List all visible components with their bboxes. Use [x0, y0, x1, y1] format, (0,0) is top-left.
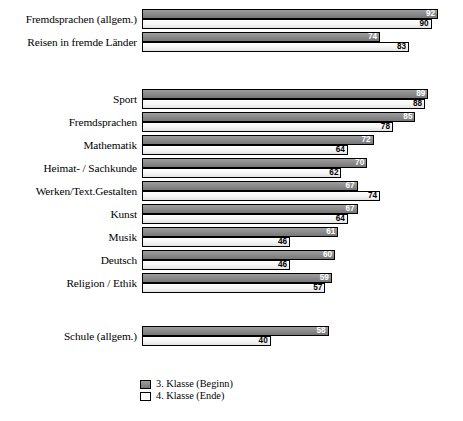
category-label-deutsch: Deutsch — [0, 254, 142, 266]
bar-end-reisen-in-fremde-laender: 83 — [142, 42, 409, 52]
bar-pair-fremdsprachen: 8578 — [142, 112, 463, 134]
category-label-schule-allgem: Schule (allgem.) — [0, 330, 142, 342]
bar-group-interests: Fremdsprachen (allgem.)9290Reisen in fre… — [0, 8, 463, 54]
bar-value-label: 78 — [381, 122, 390, 130]
bar-group-school: Schule (allgem.)5840 — [0, 325, 463, 348]
bar-value-label: 60 — [323, 250, 332, 258]
chart-row-reisen-in-fremde-laender: Reisen in fremde Länder7483 — [0, 31, 463, 54]
category-label-fremdsprachen-allgem: Fremdsprachen (allgem.) — [0, 13, 142, 25]
bar-pair-schule-allgem: 5840 — [142, 326, 463, 348]
bar-begin-sport: 89 — [142, 89, 428, 99]
bar-value-label: 85 — [403, 112, 412, 120]
legend-swatch-begin — [140, 380, 151, 389]
bar-value-label: 46 — [278, 260, 287, 268]
bar-value-label: 83 — [397, 42, 406, 50]
bar-value-label: 88 — [413, 99, 422, 107]
bar-end-heimat-sachkunde: 62 — [142, 168, 341, 178]
bar-begin-fremdsprachen-allgem: 92 — [142, 9, 438, 19]
bar-begin-deutsch: 60 — [142, 250, 335, 260]
legend-label-end: 4. Klasse (Ende) — [156, 390, 224, 402]
bar-pair-sport: 8988 — [142, 89, 463, 111]
bar-end-werken-text-gestalten: 74 — [142, 191, 380, 201]
category-label-fremdsprachen: Fremdsprachen — [0, 116, 142, 128]
chart-row-heimat-sachkunde: Heimat- / Sachkunde7062 — [0, 157, 463, 180]
chart-row-mathematik: Mathematik7264 — [0, 134, 463, 157]
bar-value-label: 58 — [316, 326, 325, 334]
bar-begin-heimat-sachkunde: 70 — [142, 158, 367, 168]
bar-pair-mathematik: 7264 — [142, 135, 463, 157]
bar-value-label: 74 — [368, 191, 377, 199]
bar-pair-heimat-sachkunde: 7062 — [142, 158, 463, 180]
bar-begin-religion-ethik: 59 — [142, 273, 332, 283]
chart-row-musik: Musik6146 — [0, 226, 463, 249]
bar-end-fremdsprachen-allgem: 90 — [142, 19, 432, 29]
bar-value-label: 67 — [345, 181, 354, 189]
bar-value-label: 90 — [419, 19, 428, 27]
bar-begin-reisen-in-fremde-laender: 74 — [142, 32, 380, 42]
category-label-reisen-in-fremde-laender: Reisen in fremde Länder — [0, 36, 142, 48]
bar-value-label: 74 — [368, 32, 377, 40]
chart-row-deutsch: Deutsch6046 — [0, 249, 463, 272]
bar-end-musik: 46 — [142, 237, 290, 247]
bar-value-label: 40 — [259, 336, 268, 344]
bar-value-label: 89 — [416, 89, 425, 97]
chart-row-werken-text-gestalten: Werken/Text.Gestalten6774 — [0, 180, 463, 203]
bar-end-schule-allgem: 40 — [142, 336, 271, 346]
bar-end-sport: 88 — [142, 99, 425, 109]
bar-value-label: 67 — [345, 204, 354, 212]
chart-row-fremdsprachen: Fremdsprachen8578 — [0, 111, 463, 134]
bar-end-fremdsprachen: 78 — [142, 122, 393, 132]
bar-value-label: 72 — [362, 135, 371, 143]
chart-row-schule-allgem: Schule (allgem.)5840 — [0, 325, 463, 348]
bar-pair-kunst: 6764 — [142, 204, 463, 226]
bar-begin-mathematik: 72 — [142, 135, 374, 145]
bar-begin-fremdsprachen: 85 — [142, 112, 415, 122]
bar-value-label: 46 — [278, 237, 287, 245]
bar-value-label: 59 — [320, 273, 329, 281]
bar-value-label: 70 — [355, 158, 364, 166]
legend-swatch-end — [140, 392, 151, 401]
category-label-kunst: Kunst — [0, 208, 142, 220]
bar-pair-religion-ethik: 5957 — [142, 273, 463, 295]
chart-row-kunst: Kunst6764 — [0, 203, 463, 226]
bar-end-mathematik: 64 — [142, 145, 348, 155]
bar-pair-reisen-in-fremde-laender: 7483 — [142, 32, 463, 54]
legend-item-end: 4. Klasse (Ende) — [140, 390, 233, 402]
bar-value-label: 64 — [336, 214, 345, 222]
bar-begin-kunst: 67 — [142, 204, 358, 214]
bar-group-subjects: Sport8988Fremdsprachen8578Mathematik7264… — [0, 88, 463, 295]
bar-end-kunst: 64 — [142, 214, 348, 224]
chart-row-fremdsprachen-allgem: Fremdsprachen (allgem.)9290 — [0, 8, 463, 31]
legend-item-begin: 3. Klasse (Beginn) — [140, 378, 233, 390]
bar-end-deutsch: 46 — [142, 260, 290, 270]
bar-pair-werken-text-gestalten: 6774 — [142, 181, 463, 203]
bar-pair-deutsch: 6046 — [142, 250, 463, 272]
bar-pair-fremdsprachen-allgem: 9290 — [142, 9, 463, 31]
chart-row-religion-ethik: Religion / Ethik5957 — [0, 272, 463, 295]
bar-value-label: 62 — [329, 168, 338, 176]
bar-value-label: 57 — [313, 283, 322, 291]
bar-begin-musik: 61 — [142, 227, 338, 237]
bar-end-religion-ethik: 57 — [142, 283, 325, 293]
bar-value-label: 61 — [326, 227, 335, 235]
category-label-musik: Musik — [0, 231, 142, 243]
chart-row-sport: Sport8988 — [0, 88, 463, 111]
bar-chart: Fremdsprachen (allgem.)9290Reisen in fre… — [0, 0, 463, 421]
category-label-mathematik: Mathematik — [0, 139, 142, 151]
bar-pair-musik: 6146 — [142, 227, 463, 249]
chart-legend: 3. Klasse (Beginn)4. Klasse (Ende) — [140, 378, 233, 402]
bar-value-label: 64 — [336, 145, 345, 153]
category-label-sport: Sport — [0, 93, 142, 105]
category-label-heimat-sachkunde: Heimat- / Sachkunde — [0, 162, 142, 174]
bar-begin-schule-allgem: 58 — [142, 326, 329, 336]
category-label-werken-text-gestalten: Werken/Text.Gestalten — [0, 185, 142, 197]
legend-label-begin: 3. Klasse (Beginn) — [156, 378, 233, 390]
category-label-religion-ethik: Religion / Ethik — [0, 277, 142, 289]
bar-value-label: 92 — [426, 9, 435, 17]
bar-begin-werken-text-gestalten: 67 — [142, 181, 358, 191]
